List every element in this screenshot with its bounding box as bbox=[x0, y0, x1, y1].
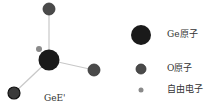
o-atom-right bbox=[88, 64, 100, 76]
legend-o-atom-icon bbox=[136, 64, 146, 74]
structure-label: GeE' bbox=[44, 94, 66, 103]
o-atom-top bbox=[43, 3, 55, 15]
legend-symbols bbox=[131, 25, 151, 93]
free-electron bbox=[36, 46, 42, 52]
legend-ge-atom-icon bbox=[131, 25, 151, 45]
o-atom-bottom-left bbox=[8, 87, 20, 99]
legend-label-electron: 自由电子 bbox=[167, 85, 203, 94]
legend-free-electron-icon bbox=[139, 88, 144, 93]
ge-atom-center bbox=[39, 50, 60, 71]
gee-defect-diagram bbox=[0, 0, 213, 111]
legend-label-ge: Ge原子 bbox=[167, 30, 198, 39]
legend-label-o: O原子 bbox=[167, 64, 192, 73]
